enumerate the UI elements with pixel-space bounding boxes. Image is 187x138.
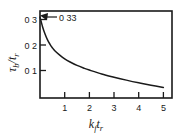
x-title-sub-r: r: [100, 123, 104, 133]
x-axis-title-text: kftr: [89, 117, 104, 133]
y-tick-label-0-3: 0 3: [24, 15, 37, 25]
x-tick-label-1: 1: [62, 103, 67, 113]
x-tick-label-5: 5: [161, 103, 166, 113]
x-axis-ticks: [65, 92, 164, 98]
x-tick-label-2: 2: [87, 103, 92, 113]
x-tick-label-4: 4: [136, 103, 141, 113]
data-curve-tau-b: [40, 17, 163, 87]
y-title-sub-r: r: [11, 53, 21, 57]
x-axis-title: kftr: [89, 117, 104, 133]
chart-canvas: 0 3 0 2 0 1 1 2 3 4 5 0 33 τb/tr: [0, 0, 187, 138]
x-tick-label-3: 3: [111, 103, 116, 113]
figure-container: 0 3 0 2 0 1 1 2 3 4 5 0 33 τb/tr: [0, 0, 187, 138]
y-axis-title: τb/tr: [5, 53, 21, 72]
start-value-annotation: 0 33: [40, 13, 77, 23]
annotation-value-label: 0 33: [59, 13, 77, 23]
y-tick-label-0-2: 0 2: [24, 41, 37, 51]
y-axis-title-text: τb/tr: [5, 53, 21, 72]
y-tick-label-0-1: 0 1: [24, 66, 37, 76]
